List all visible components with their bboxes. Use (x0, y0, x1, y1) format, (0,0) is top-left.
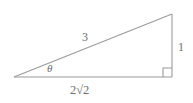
right-triangle-figure: 3 1 2√2 θ (0, 0, 193, 103)
base-label: 2√2 (70, 84, 89, 97)
hypotenuse-label: 3 (82, 31, 88, 43)
vertical-side-label: 1 (178, 41, 184, 53)
triangle-drawing (0, 0, 193, 103)
triangle-hypotenuse-line (14, 14, 172, 77)
angle-theta-label: θ (47, 63, 52, 74)
right-angle-marker-icon (163, 68, 172, 77)
